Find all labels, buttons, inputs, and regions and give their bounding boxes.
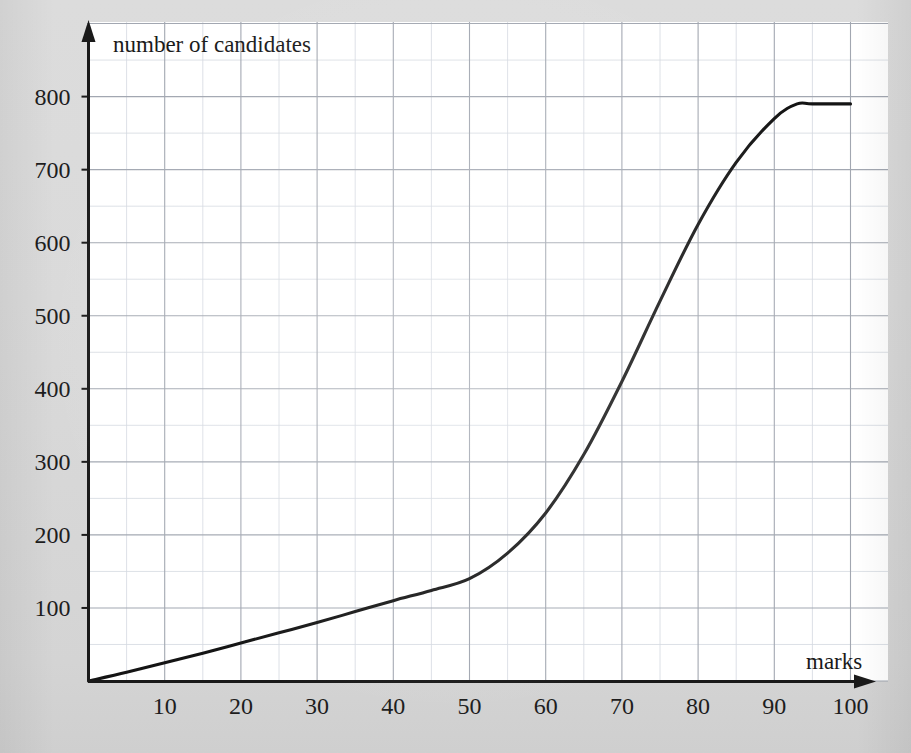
y-tick-label-400: 400 — [35, 376, 71, 402]
y-tick-label-200: 200 — [35, 522, 71, 548]
x-tick-label-60: 60 — [534, 693, 558, 719]
y-tick-label-300: 300 — [35, 449, 71, 475]
cumulative-frequency-chart: 100200300400500600700800 102030405060708… — [0, 0, 911, 753]
scanned-page-background: 100200300400500600700800 102030405060708… — [0, 0, 911, 753]
x-tick-label-90: 90 — [762, 693, 786, 719]
y-tick-label-100: 100 — [35, 595, 71, 621]
x-tick-label-30: 30 — [305, 693, 329, 719]
y-tick-label-500: 500 — [35, 303, 71, 329]
x-tick-label-50: 50 — [458, 693, 482, 719]
y-tick-label-800: 800 — [35, 84, 71, 110]
x-tick-label-20: 20 — [229, 693, 253, 719]
x-tick-label-100: 100 — [833, 693, 869, 719]
y-axis-title: number of candidates — [113, 32, 311, 57]
x-tick-label-80: 80 — [686, 693, 710, 719]
x-axis-tick-labels: 102030405060708090100 — [153, 693, 869, 719]
x-tick-label-70: 70 — [610, 693, 634, 719]
x-axis-title: marks — [806, 649, 862, 674]
y-tick-label-600: 600 — [35, 230, 71, 256]
x-tick-label-40: 40 — [381, 693, 405, 719]
x-tick-label-10: 10 — [153, 693, 177, 719]
y-axis-tick-labels: 100200300400500600700800 — [35, 84, 71, 621]
y-tick-label-700: 700 — [35, 157, 71, 183]
plot-panel — [87, 22, 888, 681]
